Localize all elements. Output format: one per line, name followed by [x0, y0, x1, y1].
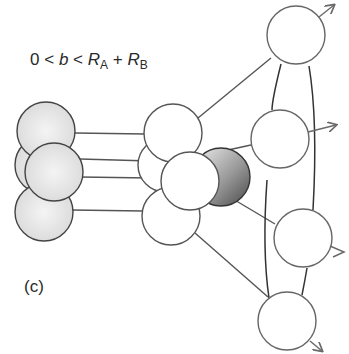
panel-label: (c) — [24, 277, 44, 297]
plus-sign: + — [113, 50, 123, 69]
zero-text: 0 — [30, 50, 39, 69]
arrow-upper — [308, 125, 336, 132]
impact-parameter-condition: 0 < b < RA + RB — [30, 50, 148, 72]
nucleus-a — [15, 102, 83, 241]
less-than-2: < — [73, 50, 83, 69]
spectator-lower — [274, 209, 332, 267]
radius-b-subscript: B — [140, 58, 148, 72]
less-than-1: < — [44, 50, 54, 69]
overlap-cluster — [138, 104, 250, 245]
spectator-upper — [251, 110, 309, 168]
arrow-bottom — [310, 341, 322, 351]
nucleus-a-sphere-front — [25, 143, 83, 201]
spectator-spheres — [251, 6, 332, 350]
spectator-bottom — [258, 292, 316, 350]
impact-parameter-b: b — [59, 50, 68, 69]
arrow-top — [319, 5, 334, 17]
radius-b-symbol: R — [127, 50, 139, 69]
spectator-top — [267, 6, 325, 64]
cluster-sphere-front — [161, 152, 219, 210]
radius-a-symbol: R — [88, 50, 100, 69]
radius-a-subscript: A — [100, 58, 108, 72]
arrow-lower-head — [330, 246, 344, 257]
